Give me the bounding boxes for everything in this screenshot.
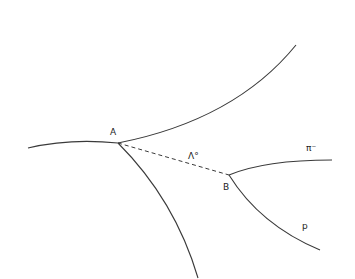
upper-right-track <box>118 45 296 143</box>
proton-label: p <box>302 221 308 231</box>
incoming-track <box>28 141 118 148</box>
downward-track <box>118 143 198 278</box>
proton-track <box>229 175 320 250</box>
pion-label: π⁻ <box>306 143 316 153</box>
vertex-a-label: A <box>110 127 117 137</box>
lambda-neutral-track <box>118 143 229 175</box>
vertex-b-label: B <box>223 182 229 192</box>
particle-track-diagram: A B Λ° π⁻ p <box>0 0 355 279</box>
pion-track <box>229 160 332 175</box>
lambda-label: Λ° <box>188 151 199 161</box>
